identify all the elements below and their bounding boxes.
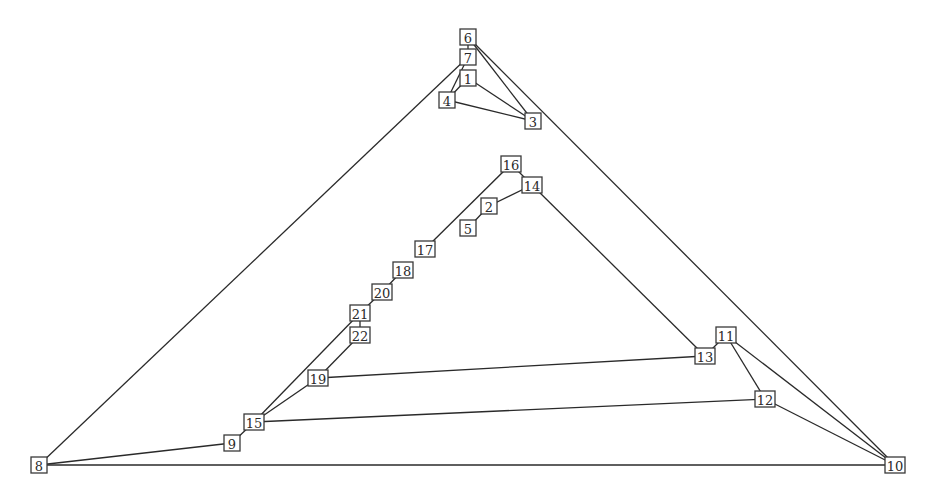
node-label: 21 xyxy=(352,307,369,322)
node-label: 12 xyxy=(757,393,774,408)
node-7: 7 xyxy=(460,49,476,66)
edge-9-8 xyxy=(39,443,232,465)
node-17: 17 xyxy=(415,241,435,258)
node-label: 9 xyxy=(228,437,236,452)
node-15: 15 xyxy=(244,414,264,431)
node-3: 3 xyxy=(525,113,541,130)
node-label: 6 xyxy=(464,31,472,46)
node-6: 6 xyxy=(460,29,476,46)
node-label: 18 xyxy=(395,264,412,279)
node-22: 22 xyxy=(350,327,370,344)
node-label: 7 xyxy=(464,51,472,66)
node-16: 16 xyxy=(501,156,521,173)
edge-4-3 xyxy=(447,100,533,121)
node-13: 13 xyxy=(695,348,715,365)
node-12: 12 xyxy=(755,391,775,408)
node-8: 8 xyxy=(31,457,47,474)
node-5: 5 xyxy=(460,220,476,237)
node-19: 19 xyxy=(308,370,328,387)
node-label: 15 xyxy=(246,416,263,431)
node-11: 11 xyxy=(716,327,736,344)
node-label: 16 xyxy=(503,158,520,173)
edge-11-12 xyxy=(726,335,765,399)
node-20: 20 xyxy=(372,284,392,301)
node-4: 4 xyxy=(439,92,455,109)
node-14: 14 xyxy=(522,177,542,194)
edge-7-8 xyxy=(39,57,468,465)
node-label: 8 xyxy=(35,459,43,474)
edge-21-15 xyxy=(254,313,360,422)
node-label: 22 xyxy=(352,329,369,344)
node-layer: 67143161425171820212211131912159810 xyxy=(31,29,905,474)
node-label: 17 xyxy=(417,243,434,258)
node-2: 2 xyxy=(481,198,497,215)
node-1: 1 xyxy=(460,70,476,87)
node-label: 11 xyxy=(718,329,735,344)
node-label: 14 xyxy=(524,179,541,194)
node-label: 3 xyxy=(529,115,537,130)
node-label: 1 xyxy=(464,72,472,87)
edge-14-13 xyxy=(532,185,705,356)
node-label: 13 xyxy=(697,350,714,365)
edge-12-10 xyxy=(765,399,895,465)
node-label: 10 xyxy=(887,459,904,474)
node-label: 19 xyxy=(310,372,327,387)
node-21: 21 xyxy=(350,305,370,322)
node-9: 9 xyxy=(224,435,240,452)
edge-6-10 xyxy=(468,37,895,465)
node-label: 20 xyxy=(374,286,391,301)
node-label: 4 xyxy=(443,94,451,109)
node-label: 2 xyxy=(485,200,493,215)
edge-19-13 xyxy=(318,356,705,378)
edge-15-12 xyxy=(254,399,765,422)
edge-1-3 xyxy=(468,78,533,121)
node-label: 5 xyxy=(464,222,472,237)
node-10: 10 xyxy=(885,457,905,474)
graph-diagram: 67143161425171820212211131912159810 xyxy=(0,0,933,500)
edge-6-3 xyxy=(468,37,533,121)
node-18: 18 xyxy=(393,262,413,279)
